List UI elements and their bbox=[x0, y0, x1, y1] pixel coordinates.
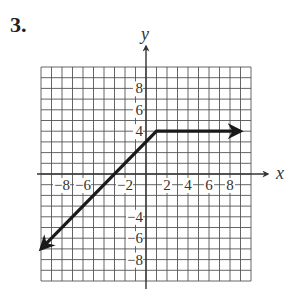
x-tick-label: 2 bbox=[163, 177, 171, 193]
y-tick-label: 8 bbox=[136, 80, 144, 96]
y-tick-label: 6 bbox=[136, 102, 144, 118]
x-tick-label: 6 bbox=[205, 177, 213, 193]
x-tick-label: −6 bbox=[75, 177, 91, 193]
y-tick-label: −6 bbox=[127, 230, 143, 246]
x-tick-label: −8 bbox=[54, 177, 70, 193]
graph: xy−8−6−22468864−4−6−8 bbox=[0, 0, 301, 301]
x-tick-label: 4 bbox=[184, 177, 192, 193]
x-axis-label: x bbox=[275, 163, 284, 183]
x-tick-label: 8 bbox=[226, 177, 234, 193]
y-axis-label: y bbox=[139, 24, 149, 44]
y-tick-label: 4 bbox=[136, 123, 144, 139]
x-tick-label: −2 bbox=[117, 177, 133, 193]
y-tick-label: −4 bbox=[127, 209, 143, 225]
y-tick-label: −8 bbox=[127, 252, 143, 268]
